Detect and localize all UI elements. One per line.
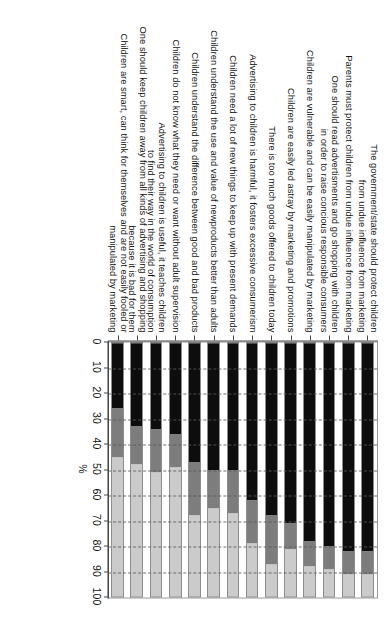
chart-plot-wrapper: 0102030405060708090100 The government/st… <box>0 0 392 631</box>
category-tick <box>214 335 215 340</box>
bar-segment-neutral <box>323 546 336 569</box>
gridline-10 <box>108 368 377 369</box>
gridline-40 <box>108 444 377 445</box>
bar-segment-disagree <box>150 472 163 597</box>
category-label: Children need a lot of new things to kee… <box>228 2 239 332</box>
bar-segment-neutral <box>150 429 163 472</box>
gridline-30 <box>108 419 377 420</box>
category-label: Children are vulnerable and can be easil… <box>305 2 316 332</box>
category-tick <box>367 335 368 340</box>
bar-segment-disagree <box>246 543 259 597</box>
gridline-80 <box>108 546 377 547</box>
bar-segment-neutral <box>169 434 182 467</box>
value-tick-label-50: 50 <box>91 462 103 474</box>
gridline-70 <box>108 521 377 522</box>
axis-title-percent: % <box>77 464 89 473</box>
category-tick <box>194 335 195 340</box>
bar-segment-disagree <box>111 457 124 597</box>
gridline-50 <box>108 470 377 471</box>
bar-segment-agree <box>342 342 355 551</box>
category-label: One should read advertisments and go sho… <box>319 2 341 332</box>
category-tick <box>271 335 272 340</box>
bar-segment-disagree <box>361 574 374 597</box>
bar-segment-neutral <box>303 541 316 567</box>
bar-segment-neutral <box>111 408 124 456</box>
bar-segment-disagree <box>323 569 336 597</box>
value-tick-20 <box>104 392 109 393</box>
value-tick-40 <box>104 443 109 444</box>
category-label: Children do not know what they need or w… <box>171 2 182 332</box>
bar-segment-agree <box>207 342 220 470</box>
bar-segment-disagree <box>303 566 316 597</box>
bar-segment-neutral <box>342 551 355 574</box>
category-tick <box>252 335 253 340</box>
value-tick-label-70: 70 <box>91 513 103 525</box>
bar-segment-agree <box>131 342 144 426</box>
value-tick-90 <box>104 571 109 572</box>
category-label: Children understand the use and value of… <box>209 2 220 332</box>
category-label: Children are easily led astray by market… <box>286 2 297 332</box>
bar-segment-neutral <box>265 515 278 563</box>
bar-segment-agree <box>169 342 182 434</box>
value-tick-label-80: 80 <box>91 539 103 551</box>
category-tick <box>175 335 176 340</box>
category-tick <box>137 335 138 340</box>
gridline-90 <box>108 572 377 573</box>
bar-segment-neutral <box>227 470 240 513</box>
category-tick <box>233 335 234 340</box>
value-tick-50 <box>104 469 109 470</box>
value-tick-label-10: 10 <box>91 360 103 372</box>
bar-segment-neutral <box>284 523 297 549</box>
bar-segment-neutral <box>361 551 374 574</box>
value-tick-label-100: 100 <box>91 587 103 605</box>
chart-stage: 0102030405060708090100 The government/st… <box>0 0 392 631</box>
gridline-60 <box>108 495 377 496</box>
value-tick-100 <box>104 596 109 597</box>
category-label: Advertising to children is harmful, it f… <box>248 2 259 332</box>
category-axis-line <box>108 340 378 341</box>
category-label: The government/state should protect chil… <box>357 2 379 332</box>
value-tick-label-60: 60 <box>91 488 103 500</box>
value-tick-30 <box>104 418 109 419</box>
category-label: One should keep children away from all k… <box>127 2 149 332</box>
value-tick-60 <box>104 494 109 495</box>
category-tick <box>348 335 349 340</box>
bar-segment-agree <box>303 342 316 541</box>
plot-area <box>107 341 378 598</box>
bar-segment-neutral <box>207 470 220 508</box>
value-tick-10 <box>104 367 109 368</box>
value-tick-label-40: 40 <box>91 437 103 449</box>
bar-segment-disagree <box>131 464 144 597</box>
category-tick <box>118 335 119 340</box>
bar-segment-agree <box>227 342 240 470</box>
value-tick-80 <box>104 545 109 546</box>
category-label: Children understand the difference betwe… <box>190 2 201 332</box>
bar-segment-disagree <box>265 564 278 597</box>
bar-segment-disagree <box>169 467 182 597</box>
category-tick <box>291 335 292 340</box>
category-tick <box>329 335 330 340</box>
category-label: Advertising to children is useful, it te… <box>146 2 168 332</box>
category-label: Parents must protect children from undue… <box>344 2 355 332</box>
category-label: There is too much goods offered to child… <box>267 2 278 332</box>
category-tick <box>310 335 311 340</box>
bar-segment-disagree <box>188 515 201 597</box>
category-label: Children are smart, can think for themse… <box>107 2 129 332</box>
value-tick-label-90: 90 <box>91 564 103 576</box>
bar-segment-disagree <box>227 513 240 597</box>
category-tick <box>156 335 157 340</box>
value-tick-label-0: 0 <box>91 338 103 344</box>
value-tick-label-20: 20 <box>91 386 103 398</box>
bar-segment-agree <box>361 342 374 551</box>
gridline-20 <box>108 393 377 394</box>
bar-segment-agree <box>246 342 259 500</box>
bar-segment-agree <box>150 342 163 429</box>
bar-segment-agree <box>111 342 124 408</box>
value-tick-70 <box>104 520 109 521</box>
value-tick-label-30: 30 <box>91 411 103 423</box>
bar-segment-disagree <box>342 574 355 597</box>
value-tick-0 <box>104 341 109 342</box>
